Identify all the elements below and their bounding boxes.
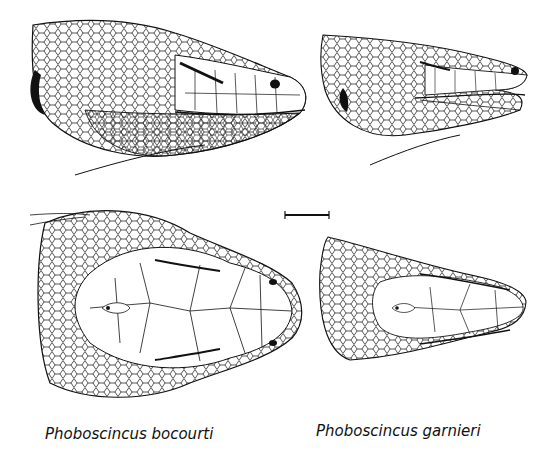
nostril-icon [270,80,280,89]
lizard-head-dorsal-drawing [30,203,310,403]
lizard-head-dorsal-drawing [310,232,535,362]
caption-left-species: Phoboscincus bocourti [45,425,213,443]
lizard-head-lateral-drawing [315,30,535,170]
caption-right-species: Phoboscincus garnieri [316,422,481,440]
bocourti-dorsal-view [30,203,310,403]
garnieri-dorsal-view [310,232,535,362]
garnieri-lateral-view [315,30,535,170]
lizard-head-lateral-drawing [25,15,310,190]
bocourti-lateral-view [25,15,310,190]
